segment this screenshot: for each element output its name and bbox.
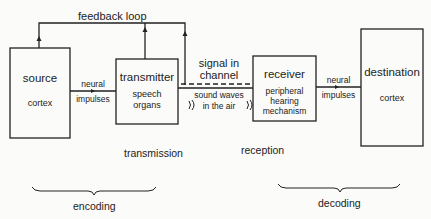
source-title: source — [10, 73, 70, 85]
sound-waves-line2: in the air — [186, 102, 252, 112]
receiver-sub-3: mechanism — [253, 107, 316, 117]
source-sub: cortex — [10, 99, 70, 108]
transmission-label: transmission — [124, 148, 183, 159]
arrow-up-icon — [37, 36, 42, 41]
encoding-brace — [32, 187, 156, 195]
neural-impulses-left-line1: neural — [72, 80, 114, 90]
signal-in-channel-line2: channel — [186, 70, 252, 81]
encoding-label: encoding — [73, 201, 116, 212]
decoding-brace — [278, 184, 400, 192]
signal-in-channel-line1: signal in — [186, 58, 252, 69]
neural-impulses-right-line1: neural — [317, 76, 360, 86]
neural-impulses-left-line2: impulses — [72, 95, 114, 105]
neural-impulses-right-line2: impulses — [317, 91, 360, 101]
feedback-loop-label: feedback loop — [78, 11, 147, 22]
sound-waves-line1: sound waves — [186, 91, 252, 101]
receiver-title: receiver — [253, 69, 316, 81]
destination-sub: cortex — [361, 94, 423, 103]
reception-label: reception — [241, 145, 284, 156]
transmitter-sub-2: organs — [116, 101, 178, 110]
transmitter-title: transmitter — [116, 72, 178, 84]
transmitter-sub-1: speech — [116, 90, 178, 99]
destination-title: destination — [361, 67, 423, 79]
arrow-up-icon — [183, 31, 188, 36]
arrow-up-icon — [143, 27, 148, 32]
destination-box — [361, 29, 423, 146]
source-box — [10, 48, 70, 138]
decoding-label: decoding — [318, 198, 361, 209]
